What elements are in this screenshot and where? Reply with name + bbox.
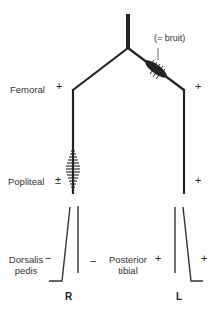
posterior-tibial-right-pulse: − — [90, 256, 96, 267]
left-dorsalis-pedis-artery — [183, 207, 203, 281]
right-dorsalis-pedis-artery — [49, 207, 70, 281]
femoral-label: Femoral — [10, 84, 45, 95]
iliac-bruit-marker — [143, 58, 169, 81]
dorsalis-pedis-label-line2: pedis — [8, 265, 44, 276]
posterior-tibial-label-line2: tibial — [106, 265, 150, 276]
popliteal-left-pulse: + — [195, 175, 201, 186]
dorsalis-pedis-right-pulse: − — [45, 253, 51, 264]
femoral-left-pulse: + — [195, 81, 201, 92]
posterior-tibial-label-line1: Posterior — [106, 254, 150, 265]
femoral-right-pulse: + — [56, 81, 62, 92]
dorsalis-pedis-left-pulse: + — [201, 253, 207, 264]
posterior-tibial-label: Posterior tibial — [106, 254, 150, 276]
popliteal-label: Popliteal — [8, 176, 44, 187]
dorsalis-pedis-label: Dorsalis pedis — [8, 254, 44, 276]
bruit-annotation: (= bruit) — [154, 33, 185, 44]
popliteal-right-pulse: ± — [55, 175, 61, 186]
dorsalis-pedis-label-line1: Dorsalis — [8, 254, 44, 265]
left-side-label: L — [176, 291, 182, 302]
right-side-label: R — [65, 291, 72, 302]
right-iliac — [73, 48, 128, 90]
posterior-tibial-left-pulse: + — [155, 253, 161, 264]
